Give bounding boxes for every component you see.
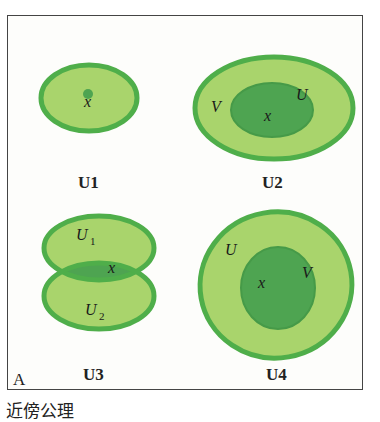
svg-text:U: U	[225, 241, 238, 258]
caption-u1: U1	[78, 173, 99, 193]
svg-text:U: U	[296, 86, 309, 103]
svg-text:1: 1	[90, 235, 96, 247]
panel-u3: U 1 U 2 x	[44, 216, 154, 329]
svg-text:x: x	[107, 259, 115, 276]
corner-label: A	[13, 370, 25, 390]
panel-u2: V U x	[195, 57, 353, 159]
svg-text:x: x	[83, 93, 91, 110]
svg-text:U: U	[85, 301, 98, 318]
panel-u4: U V x	[188, 200, 363, 370]
caption-u2: U2	[262, 173, 283, 193]
svg-text:2: 2	[99, 310, 105, 322]
bottom-caption: 近傍公理	[6, 397, 74, 422]
svg-text:x: x	[257, 274, 265, 291]
svg-text:x: x	[263, 107, 271, 124]
caption-u4: U4	[266, 365, 287, 385]
svg-text:U: U	[76, 226, 89, 243]
panel-u1: x	[41, 65, 137, 131]
caption-u3: U3	[83, 365, 104, 385]
